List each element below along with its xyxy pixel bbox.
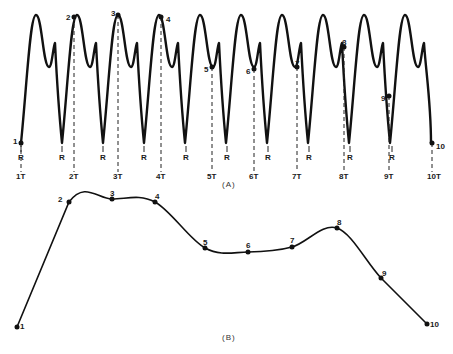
time-label: 1T — [16, 172, 25, 181]
panel-a-caption: (A) — [222, 180, 236, 189]
envelope-point — [15, 325, 20, 330]
envelope-point — [425, 322, 430, 327]
marked-point — [116, 13, 121, 18]
r-wave-label: R — [224, 153, 230, 162]
envelope-point-label: 5 — [203, 238, 208, 247]
r-wave-label: R — [347, 153, 353, 162]
time-label: 3T — [113, 172, 122, 181]
time-label: 2T — [69, 172, 78, 181]
envelope-point — [246, 250, 251, 255]
marked-point — [159, 15, 164, 20]
envelope-curve-trace — [17, 192, 427, 327]
point-label: 5 — [204, 65, 209, 74]
time-label: 10T — [427, 172, 441, 181]
envelope-point-label: 7 — [290, 236, 295, 245]
point-label: 3 — [111, 9, 116, 18]
r-wave-label: R — [141, 153, 147, 162]
point-label: 1 — [13, 137, 18, 146]
time-label: 9T — [384, 172, 393, 181]
point-label: 6 — [246, 67, 251, 76]
envelope-point-label: 8 — [337, 218, 342, 227]
time-label: 6T — [249, 172, 258, 181]
r-wave-label: R — [100, 153, 106, 162]
marked-point — [387, 94, 392, 99]
marked-point — [19, 141, 24, 146]
envelope-point-label: 3 — [110, 189, 115, 198]
time-label: 5T — [207, 172, 216, 181]
r-wave-labels: RRRRRRRRRR — [18, 146, 395, 162]
marked-point — [72, 15, 77, 20]
envelope-point-label: 6 — [246, 241, 251, 250]
panel-b-envelope-curve: 12345678910 (B) — [15, 189, 440, 342]
r-wave-label: R — [306, 153, 312, 162]
envelope-point — [67, 200, 72, 205]
envelope-point-label: 10 — [430, 320, 439, 329]
envelope-point-label: 1 — [20, 322, 25, 331]
pulse-waveform-trace — [21, 15, 431, 143]
marked-point — [430, 141, 435, 146]
point-label: 10 — [436, 142, 445, 151]
panel-a-pulse-waveform: 12345678910 RRRRRRRRRR 1T2T3T4T5T6T7T8T9… — [13, 9, 445, 189]
point-label: 9 — [381, 94, 386, 103]
r-wave-label: R — [183, 153, 189, 162]
marked-point — [210, 65, 215, 70]
point-label: 4 — [166, 15, 171, 24]
r-wave-label: R — [389, 153, 395, 162]
r-wave-label: R — [59, 153, 65, 162]
point-label: 8 — [342, 38, 347, 47]
waveform-marked-points: 12345678910 — [13, 9, 445, 151]
time-label: 4T — [156, 172, 165, 181]
envelope-point-label: 9 — [382, 269, 387, 278]
envelope-point — [290, 245, 295, 250]
envelope-point-label: 4 — [155, 192, 160, 201]
marked-point — [252, 67, 257, 72]
envelope-point-label: 2 — [58, 195, 63, 204]
time-label: 8T — [339, 172, 348, 181]
r-wave-label: R — [265, 153, 271, 162]
point-label: 2 — [66, 13, 71, 22]
time-label: 7T — [292, 172, 301, 181]
point-label: 7 — [295, 59, 300, 68]
panel-b-caption: (B) — [222, 333, 236, 342]
envelope-marked-points: 12345678910 — [15, 189, 440, 331]
r-wave-label: R — [18, 153, 24, 162]
figure-canvas: 12345678910 RRRRRRRRRR 1T2T3T4T5T6T7T8T9… — [0, 0, 453, 354]
